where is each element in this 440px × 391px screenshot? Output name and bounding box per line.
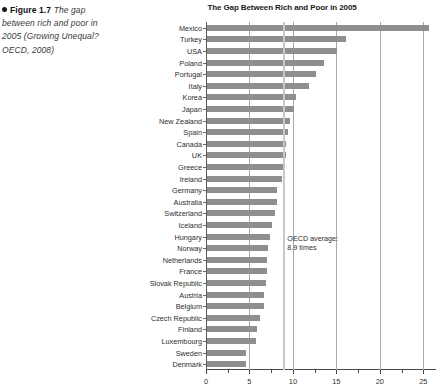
bar — [207, 118, 290, 124]
x-axis-tick-label: 20 — [376, 377, 384, 386]
bar — [207, 234, 270, 240]
y-axis-category-label: Mexico — [179, 23, 206, 32]
bullet-icon — [2, 7, 7, 12]
caption-line-2: between rich and poor in — [2, 17, 128, 30]
bar — [207, 94, 296, 100]
caption-line-1: Figure 1.7 The gap — [2, 4, 128, 17]
bar — [207, 199, 277, 205]
caption-text-1: The gap — [54, 5, 86, 15]
x-axis-minor-tick — [358, 370, 359, 373]
y-axis-category-label: New Zealand — [159, 116, 206, 125]
x-axis-tick — [249, 370, 250, 374]
y-axis-category-label: Spain — [183, 128, 206, 137]
y-axis-category-label: France — [179, 267, 206, 276]
bar — [207, 280, 266, 286]
y-axis-category-label: Switzerland — [164, 209, 206, 218]
oecd-average-annotation: OECD average:8.9 times — [287, 234, 338, 253]
y-axis-category-label: USA — [187, 47, 206, 56]
y-axis-category-label: Hungary — [174, 232, 206, 241]
y-axis-category-label: Denmark — [172, 360, 206, 369]
x-axis-minor-tick — [315, 370, 316, 373]
x-axis-tick — [293, 370, 294, 374]
bar — [207, 315, 260, 321]
x-axis-minor-tick — [228, 370, 229, 373]
chart-panel: The Gap Between Rich and Poor in 2005 05… — [132, 0, 440, 391]
y-axis-category-label: Germany — [172, 186, 206, 195]
x-gridline — [380, 22, 381, 370]
oecd-average-annotation-line-2: 8.9 times — [287, 243, 338, 252]
bar — [207, 187, 277, 193]
oecd-average-annotation-line-1: OECD average: — [287, 234, 338, 243]
y-axis-category-label: Austria — [179, 290, 206, 299]
y-axis-category-label: Iceland — [178, 221, 206, 230]
bar — [207, 210, 275, 216]
x-axis-minor-tick — [402, 370, 403, 373]
figure-caption: Figure 1.7 The gap between rich and poor… — [0, 4, 128, 57]
x-axis-tick-label: 15 — [332, 377, 340, 386]
bar — [207, 292, 264, 298]
y-axis-category-label: UK — [192, 151, 206, 160]
figure-number: Figure 1.7 — [10, 5, 51, 15]
y-axis-category-label: Japan — [182, 105, 206, 114]
bar — [207, 83, 309, 89]
plot-inner: 0510152025MexicoTurkeyUSAPolandPortugalI… — [206, 22, 432, 370]
bar — [207, 164, 284, 170]
y-axis-category-label: Sweden — [176, 348, 206, 357]
bar — [207, 268, 267, 274]
y-axis-category-label: Norway — [177, 244, 206, 253]
bar — [207, 338, 256, 344]
y-axis-category-label: Luxembourg — [161, 337, 206, 346]
bar — [207, 303, 264, 309]
x-axis-tick-label: 0 — [204, 377, 208, 386]
bar — [207, 176, 282, 182]
plot-area: 0510152025MexicoTurkeyUSAPolandPortugalI… — [206, 22, 432, 370]
bar — [207, 245, 268, 251]
y-axis-category-label: Turkey — [180, 35, 206, 44]
y-axis-category-label: Belgium — [176, 302, 206, 311]
y-axis-category-label: Finland — [178, 325, 206, 334]
bar — [207, 60, 324, 66]
bar — [207, 71, 316, 77]
bar — [207, 326, 257, 332]
y-axis-category-label: Ireland — [180, 174, 206, 183]
bar — [207, 257, 267, 263]
bar — [207, 361, 246, 367]
oecd-average-line — [283, 22, 285, 370]
bar — [207, 36, 346, 42]
y-axis-category-label: Portugal — [175, 70, 206, 79]
caption-line-3: 2005 (Growing Unequal? — [2, 30, 128, 43]
bar — [207, 129, 288, 135]
bar — [207, 25, 429, 31]
bar — [207, 106, 294, 112]
x-axis-tick-label: 10 — [289, 377, 297, 386]
y-axis-category-label: Korea — [183, 93, 206, 102]
bar — [207, 152, 286, 158]
x-axis-tick-label: 25 — [419, 377, 427, 386]
y-axis-category-label: Netherlands — [163, 255, 206, 264]
bar — [207, 222, 272, 228]
chart-title: The Gap Between Rich and Poor in 2005 — [132, 3, 432, 12]
caption-line-4: OECD, 2008) — [2, 44, 128, 57]
y-axis-category-label: Slovak Republic — [150, 279, 206, 288]
x-axis-tick — [336, 370, 337, 374]
x-gridline — [423, 22, 424, 370]
y-axis-category-label: Poland — [179, 58, 206, 67]
bar — [207, 48, 337, 54]
x-axis-tick — [206, 370, 207, 374]
x-axis-minor-tick — [271, 370, 272, 373]
y-axis-category-label: Italy — [189, 81, 206, 90]
x-axis-tick-label: 5 — [247, 377, 251, 386]
y-axis-category-label: Greece — [178, 163, 206, 172]
x-axis-tick — [423, 370, 424, 374]
y-axis-category-label: Canada — [176, 139, 206, 148]
x-axis-tick — [380, 370, 381, 374]
y-axis-category-label: Australia — [174, 197, 206, 206]
y-axis-category-label: Czech Republic — [151, 313, 206, 322]
x-gridline — [336, 22, 337, 370]
bar — [207, 141, 286, 147]
bar — [207, 350, 246, 356]
